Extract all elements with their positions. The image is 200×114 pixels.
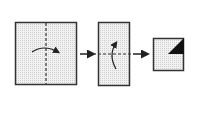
step-3-result [154, 38, 185, 71]
step-1-square [16, 23, 77, 85]
step-2-rectangle [93, 23, 132, 86]
fold-diagram [0, 0, 200, 114]
